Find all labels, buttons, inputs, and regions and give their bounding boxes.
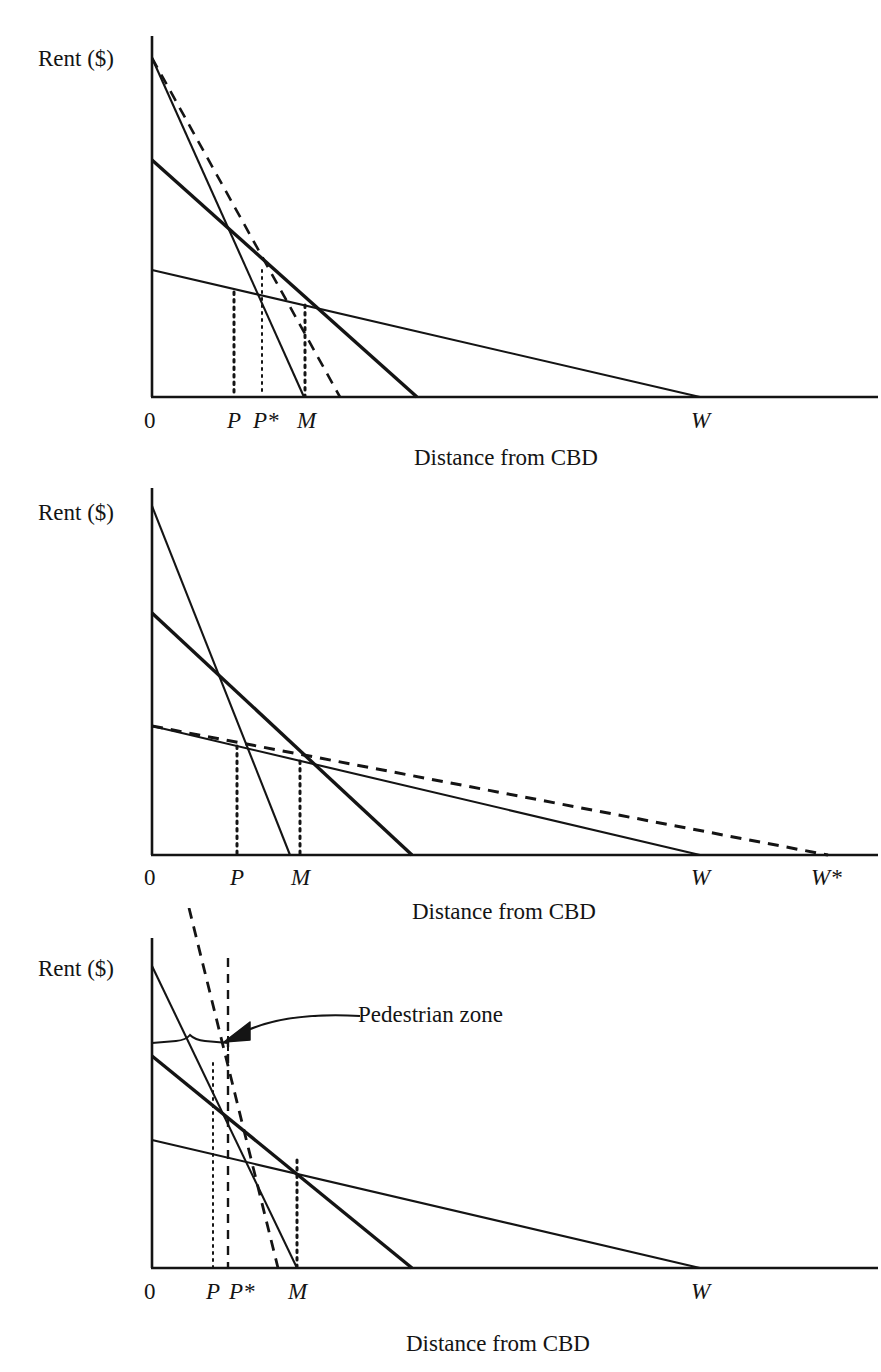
panel3-annotation-leader <box>248 1015 360 1030</box>
panel1-tick-p: P <box>227 409 241 432</box>
panel3-pedestrian-zone-label: Pedestrian zone <box>358 1003 503 1026</box>
panel1-tick-pstar: P* <box>253 409 279 432</box>
panel2-tick-w: W <box>691 866 710 889</box>
panel2-tick-m: M <box>291 866 310 889</box>
panel3-plot <box>0 908 881 1372</box>
panel3-series-residential-bid-rent <box>152 1140 700 1268</box>
panel1-plot <box>0 0 881 480</box>
chart-panel-2: Rent ($) 0 P M W W* <box>0 458 881 928</box>
panel1-series-office-bid-rent-shifted <box>152 58 340 397</box>
panel2-tick-wstar: W* <box>811 866 842 889</box>
chart-panel-3: Rent ($) <box>0 908 881 1372</box>
bid-rent-figure: Rent ($) 0 P P* M <box>0 0 881 1372</box>
panel3-pedestrian-zone-brace <box>152 1035 228 1043</box>
panel3-tick-w: W <box>691 1280 710 1303</box>
panel2-series-office-bid-rent <box>152 506 290 855</box>
panel2-plot <box>0 458 881 928</box>
panel1-tick-m: M <box>297 409 316 432</box>
panel1-tick-w: W <box>691 409 710 432</box>
panel3-tick-p: P <box>206 1280 220 1303</box>
panel1-tick-origin: 0 <box>144 409 156 432</box>
panel3-tick-pstar: P* <box>229 1280 255 1303</box>
panel3-x-axis-label: Distance from CBD <box>406 1332 590 1355</box>
panel2-series-residential-bid-rent-original <box>152 726 700 855</box>
panel3-tick-m: M <box>288 1280 307 1303</box>
panel3-series-retail-bid-rent-steepened <box>189 908 278 1268</box>
panel2-tick-origin: 0 <box>144 866 156 889</box>
chart-panel-1: Rent ($) 0 P P* M <box>0 0 881 480</box>
panel2-series-residential-bid-rent-flatter <box>152 726 828 855</box>
panel2-tick-p: P <box>230 866 244 889</box>
panel3-tick-origin: 0 <box>144 1280 156 1303</box>
